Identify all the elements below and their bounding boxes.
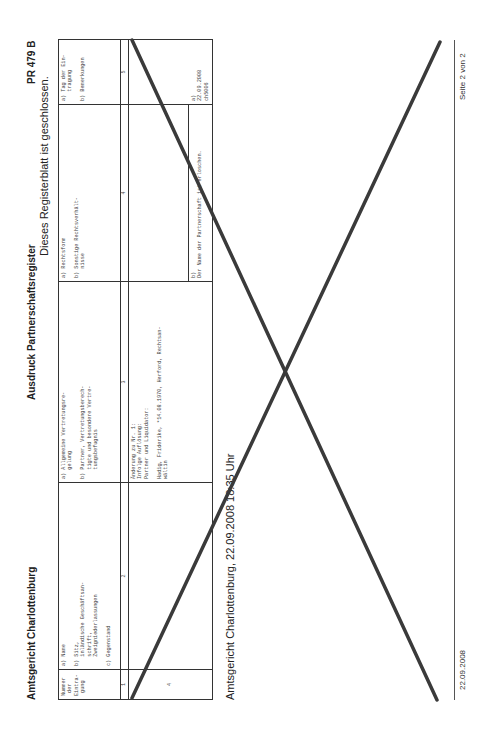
register-page: Amtsgericht Charlottenburg Ausdruck Part… bbox=[0, 0, 492, 734]
cancellation-cross-icon bbox=[0, 0, 492, 734]
